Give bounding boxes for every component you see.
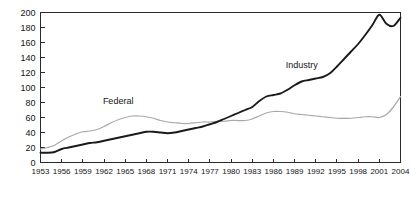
x-tick-labels: 1953195619591962196519681971197419771980… — [32, 167, 410, 176]
chart-container: 020406080100120140160180200 195319561959… — [0, 0, 420, 198]
y-tick-label: 40 — [25, 128, 35, 138]
y-tick-label: 120 — [20, 68, 35, 78]
data-series-group — [41, 15, 401, 153]
x-tick-label: 1986 — [265, 167, 283, 176]
y-tick-labels: 020406080100120140160180200 — [20, 8, 35, 168]
axis-frame — [41, 13, 401, 163]
x-tick-label: 1962 — [95, 167, 113, 176]
x-tick-label: 1989 — [286, 167, 304, 176]
y-tick-label: 200 — [20, 8, 35, 18]
plot-frame — [41, 13, 401, 163]
y-tick-label: 180 — [20, 23, 35, 33]
y-tick-label: 140 — [20, 53, 35, 63]
x-tick-label: 1977 — [201, 167, 219, 176]
x-tick-label: 2001 — [370, 167, 388, 176]
x-tick-label: 1983 — [243, 167, 261, 176]
x-tick-label: 1968 — [137, 167, 155, 176]
y-tick-label: 60 — [25, 113, 35, 123]
x-tick-label: 1965 — [116, 167, 134, 176]
x-tick-label: 1953 — [32, 167, 50, 176]
x-tick-label: 1980 — [222, 167, 240, 176]
x-tick-label: 1974 — [180, 167, 198, 176]
x-tick-label: 1992 — [307, 167, 325, 176]
line-chart: 020406080100120140160180200 195319561959… — [0, 0, 420, 198]
x-tick-label: 1956 — [53, 167, 71, 176]
x-tick-label: 1959 — [74, 167, 92, 176]
y-tick-label: 20 — [25, 143, 35, 153]
x-tick-label: 2004 — [392, 167, 410, 176]
series-annotation-industry: Industry — [286, 60, 319, 70]
series-annotations: FederalIndustry — [103, 60, 318, 106]
x-tick-label: 1998 — [349, 167, 367, 176]
x-tick-marks — [41, 159, 401, 163]
y-tick-label: 100 — [20, 83, 35, 93]
x-tick-label: 1971 — [159, 167, 177, 176]
y-tick-label: 80 — [25, 98, 35, 108]
y-tick-marks — [41, 13, 45, 163]
y-tick-label: 160 — [20, 38, 35, 48]
series-line-industry — [41, 15, 401, 153]
x-tick-label: 1995 — [328, 167, 346, 176]
series-annotation-federal: Federal — [103, 96, 134, 106]
series-line-federal — [41, 97, 401, 150]
